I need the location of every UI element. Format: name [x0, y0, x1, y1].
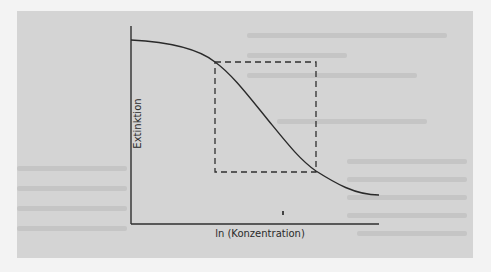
y-axis-label: Extinktion — [132, 84, 143, 164]
x-axis-label: ln (Konzentration) — [190, 228, 330, 239]
scan-artifact — [282, 211, 284, 215]
